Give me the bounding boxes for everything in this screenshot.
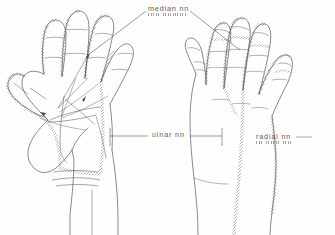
ulnar-nerve-label: ulnar nn — [152, 131, 185, 138]
right-ring-crease — [249, 55, 267, 56]
left-distal-palmar-crease — [50, 107, 100, 120]
left-thumb-nail-crease — [14, 83, 28, 94]
leader-lines — [88, 11, 312, 146]
right-wrist-taper — [194, 178, 228, 184]
left-ring-crease-distal — [95, 33, 112, 35]
left-ulnar-palm-hatch — [60, 168, 100, 174]
median-nerve-label: median nn — [148, 5, 189, 12]
right-index-hatch — [206, 23, 225, 84]
left-median-boundary-hatch-2 — [62, 11, 79, 76]
right-hand-dorsal — [185, 18, 292, 235]
left-hand-palmar — [8, 11, 134, 235]
left-proximal-palmar-crease — [48, 115, 96, 122]
left-little-finger — [101, 44, 133, 104]
right-dorsum-ulnar-edge — [190, 74, 198, 235]
radial-nerve-label-underline — [256, 141, 292, 144]
arrow-head-ulnar-palm — [82, 96, 86, 102]
right-little-nail — [278, 63, 291, 66]
left-wrist-crease-3 — [56, 185, 98, 187]
left-little-crease-distal — [118, 53, 132, 54]
right-middle-crease — [228, 49, 248, 50]
left-ray-line-1 — [58, 78, 88, 108]
left-wrist-crease-2 — [52, 178, 100, 180]
right-thumb — [185, 38, 206, 84]
right-knuckle-line-1 — [232, 103, 250, 104]
right-ring-nail — [254, 33, 269, 36]
right-thumb-crease — [194, 62, 205, 64]
left-index-crease-distal — [46, 37, 64, 38]
right-thumb-nail — [188, 48, 200, 51]
left-middle-crease-mid — [64, 53, 85, 54]
left-thenar-hatch — [8, 74, 60, 166]
left-thumb-crease — [30, 88, 46, 99]
right-ring-hatch — [243, 24, 265, 90]
left-index-crease-mid — [45, 57, 62, 58]
right-middle-nail — [232, 27, 249, 30]
right-middle-distal-band-hatch — [229, 37, 250, 39]
right-middle-crease-2 — [226, 67, 245, 68]
radial-nerve-label: radial nn — [256, 133, 291, 140]
left-hypothenar-line — [96, 116, 106, 158]
median-nerve-label-underline — [148, 13, 186, 16]
right-knuckle-line-2 — [252, 107, 268, 109]
left-middle-crease-distal — [67, 29, 87, 30]
left-median-boundary-hatch — [43, 20, 57, 74]
right-web-hatch — [224, 88, 236, 114]
right-knuckle-line-3 — [212, 99, 229, 100]
left-thenar-crease — [60, 96, 66, 162]
left-hand-nerve-arrows — [40, 53, 90, 116]
right-little-crease — [272, 79, 287, 80]
nerve-distribution-figure: median nn ulnar nn radial nn — [0, 0, 335, 235]
right-little-distal-band-hatch — [276, 71, 290, 73]
left-median-ring-split-hatch — [101, 52, 113, 82]
left-ring-crease-mid — [89, 57, 106, 58]
right-ring-crease-2 — [246, 71, 264, 72]
left-median-palm-hatch — [100, 84, 103, 172]
hand-diagram-svg — [0, 0, 335, 235]
right-ring-distal-band-hatch — [250, 45, 269, 47]
left-little-crease-mid — [112, 69, 127, 70]
right-little-finger — [259, 55, 292, 116]
right-middle-hatch — [224, 18, 242, 88]
left-palm-edge — [110, 104, 112, 150]
